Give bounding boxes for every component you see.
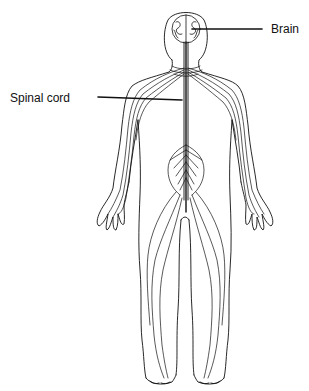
body-outline: [97, 13, 273, 385]
spinal-cord-leader-line: [98, 97, 182, 100]
nervous-system-diagram: [0, 0, 309, 391]
spinal-cord-illustration: [184, 42, 188, 212]
spinal-cord-label: Spinal cord: [10, 91, 70, 105]
brain-label: Brain: [271, 22, 299, 36]
